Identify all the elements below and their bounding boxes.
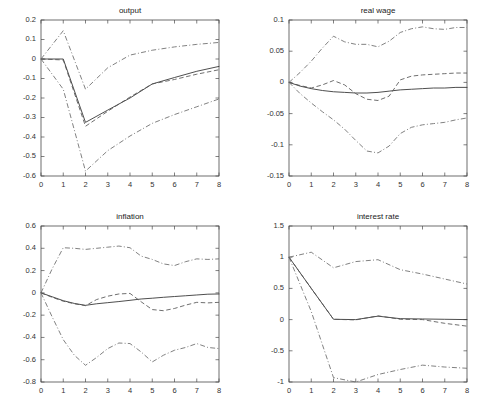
panel-title: real wage (361, 6, 396, 15)
series-dashdot (41, 246, 219, 293)
x-tick-label: 4 (376, 386, 380, 395)
y-tick-label: -0.1 (271, 140, 284, 149)
y-tick-label: 0 (280, 77, 284, 86)
x-tick-label: 4 (376, 180, 380, 189)
x-tick-label: 4 (128, 180, 132, 189)
x-tick-label: 7 (195, 386, 199, 395)
series-dashed (289, 257, 467, 326)
y-tick-label: -0.2 (23, 310, 36, 319)
x-tick-label: 5 (398, 180, 402, 189)
panel-title: inflation (116, 212, 144, 221)
y-tick-label: 1.5 (274, 221, 284, 230)
series-dashed (41, 59, 219, 126)
x-tick-label: 3 (354, 180, 358, 189)
y-tick-label: -0.8 (23, 377, 36, 386)
y-tick-label: 0.2 (26, 266, 36, 275)
x-tick-label: 0 (287, 180, 291, 189)
series-dashdot (289, 27, 467, 83)
x-tick-label: 2 (331, 180, 335, 189)
x-tick-label: 2 (331, 386, 335, 395)
y-tick-label: -0.4 (23, 332, 36, 341)
x-tick-label: 4 (128, 386, 132, 395)
x-tick-label: 2 (83, 386, 87, 395)
y-tick-label: 0.5 (274, 283, 284, 292)
y-tick-label: -0.4 (23, 132, 36, 141)
y-tick-label: -0.3 (23, 112, 36, 121)
x-tick-label: 8 (465, 386, 469, 395)
y-tick-label: -0.5 (23, 151, 36, 160)
y-tick-label: -0.6 (23, 355, 36, 364)
axis-frame (289, 226, 467, 382)
x-tick-label: 8 (217, 386, 221, 395)
x-tick-label: 5 (398, 386, 402, 395)
chart-panel-inflation: inflation0123456780.60.40.20-0.2-0.4-0.6… (0, 206, 249, 414)
y-tick-label: -0.1 (23, 73, 36, 82)
series-dashed (289, 73, 467, 100)
x-tick-label: 7 (443, 180, 447, 189)
series-solid (41, 293, 219, 305)
x-tick-label: 0 (39, 180, 43, 189)
series-solid (289, 82, 467, 93)
x-tick-label: 6 (420, 180, 424, 189)
y-tick-label: -0.05 (267, 109, 284, 118)
x-tick-label: 3 (354, 386, 358, 395)
panel-title: interest rate (357, 212, 400, 221)
y-tick-label: 0 (280, 315, 284, 324)
y-tick-label: 0.1 (274, 15, 284, 24)
series-solid (41, 59, 219, 122)
x-tick-label: 1 (61, 180, 65, 189)
series-solid (289, 257, 467, 319)
x-tick-label: 1 (309, 180, 313, 189)
x-tick-label: 1 (61, 386, 65, 395)
y-tick-label: -1 (277, 377, 284, 386)
y-tick-label: 0 (32, 288, 36, 297)
x-tick-label: 8 (217, 180, 221, 189)
y-tick-label: 0.2 (26, 15, 36, 24)
series-dashdot (41, 293, 219, 365)
y-tick-label: 0.4 (26, 243, 36, 252)
x-tick-label: 5 (150, 180, 154, 189)
impulse-response-figure: output0123456780.20.10-0.1-0.2-0.3-0.4-0… (0, 0, 497, 414)
chart-panel-real-wage: real wage0123456780.10.050-0.05-0.1-0.15 (248, 0, 497, 208)
x-tick-label: 3 (106, 180, 110, 189)
y-tick-label: 0.05 (269, 46, 284, 55)
series-dashdot (289, 252, 467, 284)
x-tick-label: 2 (83, 180, 87, 189)
x-tick-label: 5 (150, 386, 154, 395)
axis-frame (41, 226, 219, 382)
y-tick-label: 1 (280, 252, 284, 261)
y-tick-label: 0.1 (26, 34, 36, 43)
x-tick-label: 7 (443, 386, 447, 395)
y-tick-label: -0.5 (271, 346, 284, 355)
x-tick-label: 3 (106, 386, 110, 395)
x-tick-label: 0 (39, 386, 43, 395)
x-tick-label: 1 (309, 386, 313, 395)
x-tick-label: 6 (172, 386, 176, 395)
x-tick-label: 8 (465, 180, 469, 189)
y-tick-label: 0 (32, 54, 36, 63)
series-dashdot (41, 59, 219, 171)
panel-title: output (119, 6, 142, 15)
series-dashdot (289, 82, 467, 153)
x-tick-label: 6 (420, 386, 424, 395)
x-tick-label: 0 (287, 386, 291, 395)
y-tick-label: 0.6 (26, 221, 36, 230)
chart-panel-interest-rate: interest rate0123456781.510.50-0.5-1 (248, 206, 497, 414)
y-tick-label: -0.15 (267, 171, 284, 180)
x-tick-label: 7 (195, 180, 199, 189)
y-tick-label: -0.6 (23, 171, 36, 180)
chart-panel-output: output0123456780.20.10-0.1-0.2-0.3-0.4-0… (0, 0, 249, 208)
x-tick-label: 6 (172, 180, 176, 189)
series-dashdot (41, 31, 219, 90)
y-tick-label: -0.2 (23, 93, 36, 102)
